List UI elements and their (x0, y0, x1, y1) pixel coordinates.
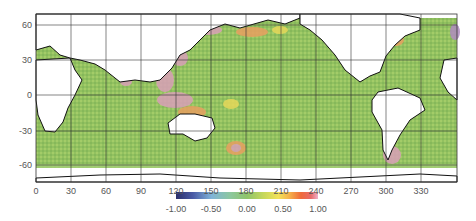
colorbar-label: -1.00 (161, 204, 191, 214)
x-tick-label: 0 (24, 186, 48, 196)
colorbar-label: 0.50 (268, 204, 298, 214)
x-tick-label: 270 (339, 186, 363, 196)
x-tick-label: 300 (374, 186, 398, 196)
y-tick-label: 30 (4, 55, 32, 65)
y-tick-label: -60 (4, 160, 32, 170)
colorbar-label: 0.00 (232, 204, 262, 214)
y-tick-label: -30 (4, 126, 32, 136)
x-tick-label: 180 (234, 186, 258, 196)
x-tick-label: 330 (409, 186, 433, 196)
y-tick-label: 0 (4, 90, 32, 100)
x-tick-label: 60 (94, 186, 118, 196)
colorbar-label: -0.50 (196, 204, 226, 214)
colorbar-label: 1.00 (303, 204, 333, 214)
x-tick-label: 240 (304, 186, 328, 196)
x-tick-label: 120 (164, 186, 188, 196)
x-tick-label: 90 (129, 186, 153, 196)
y-tick-label: 60 (4, 20, 32, 30)
figure: 60 30 0 -30 -60 0 30 60 90 120 150 180 2… (0, 0, 476, 221)
x-tick-label: 210 (269, 186, 293, 196)
x-tick-label: 150 (199, 186, 223, 196)
x-tick-label: 30 (59, 186, 83, 196)
